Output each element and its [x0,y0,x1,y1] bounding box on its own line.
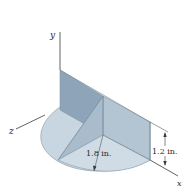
z-axis-label: z [8,126,14,136]
height-arrow-top-icon [163,132,166,137]
radius-dimension-label: 1.8 in. [86,149,112,158]
z-axis [16,115,45,129]
height-extension-top [150,122,168,132]
x-axis-label: x [177,179,182,188]
height-arrow-bottom-icon [163,161,166,166]
composite-body-diagram: y z x 1.2 in. 1.8 in. [0,0,191,191]
y-axis-label: y [49,30,56,40]
height-dimension-label: 1.2 in. [152,147,178,156]
